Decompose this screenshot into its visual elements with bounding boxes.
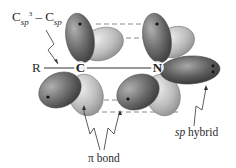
sp-hybrid-lobe: [159, 54, 220, 85]
csp3-csp-label: Csp3 – Csp: [12, 10, 62, 27]
sp-hybrid-label: sp hybrid: [175, 127, 218, 139]
pi-bond-label: π bond: [88, 153, 120, 165]
substituent-r-label: R: [32, 61, 41, 74]
nitrogen-atom-label: N: [151, 61, 164, 74]
nitrile-orbital-diagram: Csp3 – Csp R C N π bond sp hybrid: [0, 0, 236, 168]
carbon-atom-label: C: [74, 61, 87, 74]
